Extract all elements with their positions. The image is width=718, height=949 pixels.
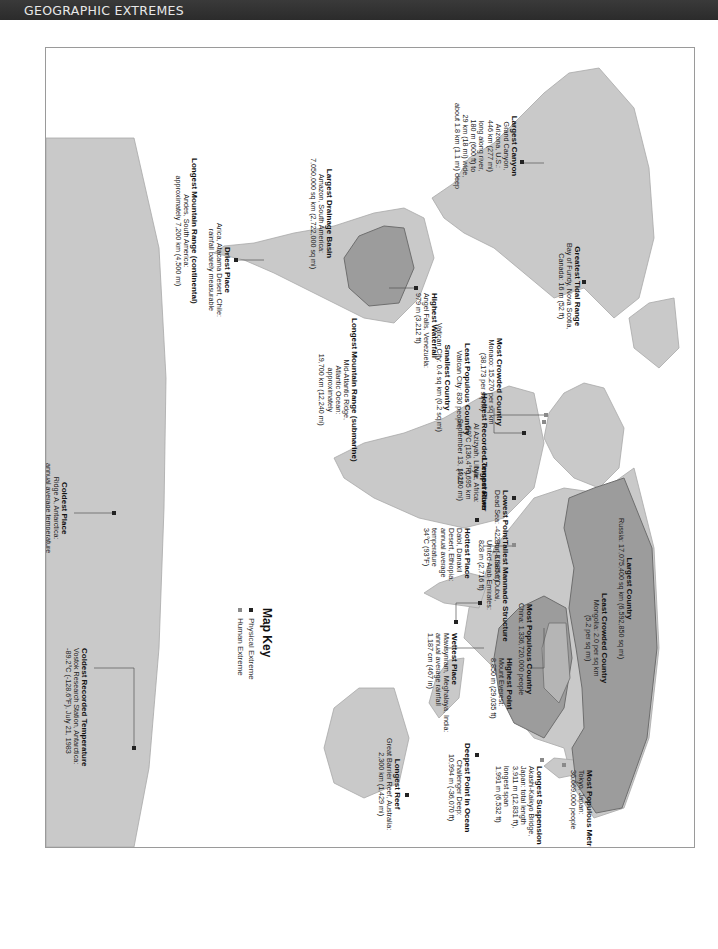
marker-al-aziziyah	[522, 431, 526, 435]
label-greatest-tidal-range: Greatest Tidal Range Bay of Fundy, Nova …	[557, 243, 582, 330]
marker-tokyo	[562, 763, 566, 767]
marker-atacama	[234, 258, 238, 262]
label-longest-river: Longest River Nile, Africa:6,695 km(4,16…	[455, 458, 489, 511]
marker-burj-khalifa	[512, 543, 516, 547]
label-wettest-place: Wettest Place Mawsynram, Meghalaya, Indi…	[425, 633, 459, 732]
label-coldest-place: Coldest Place Ridge A, Antarctica:annual…	[45, 463, 69, 553]
page-title: GEOGRAPHIC EXTREMES	[24, 3, 184, 18]
map-key: Map Key Physical Extreme Human Extreme	[235, 608, 274, 680]
marker-monaco	[544, 413, 548, 417]
greenland-shape	[629, 298, 679, 368]
map-land-shapes	[46, 48, 694, 847]
map-key-title: Map Key	[260, 608, 274, 680]
marker-akashi	[540, 758, 544, 762]
map-key-physical: Physical Extreme	[246, 608, 257, 680]
page-header: GEOGRAPHIC EXTREMES	[0, 0, 718, 20]
label-longest-mountain-range-submarine: Longest Mountain Range (submarine) Mid-A…	[317, 318, 359, 462]
label-hottest-place: Hottest Place Dalol, DanakilDesert, Ethi…	[422, 528, 472, 581]
label-longest-mountain-range-continental: Longest Mountain Range (continental) And…	[174, 158, 199, 304]
europe-shape	[544, 383, 624, 488]
label-highest-point: Highest Point Mount Everest:8,850 m (29,…	[489, 658, 514, 719]
label-most-populous-country: Most Populous Country China: 1,336,720,0…	[517, 603, 534, 695]
label-most-populous-metro: Most Populous Metropolitan Area Tokyo, J…	[569, 770, 594, 848]
label-longest-suspension-bridge: Longest Suspension Bridge Akashi-Kaikyo …	[494, 766, 544, 848]
marker-mawsynram	[454, 620, 458, 624]
marker-tidal-range	[582, 280, 586, 284]
label-largest-drainage-basin: Largest Drainage Basin Amazon, South Ame…	[309, 158, 334, 269]
label-least-crowded-country: Least Crowded Country Mongolia: 2.0 per …	[584, 593, 609, 683]
marker-dalol	[475, 518, 479, 522]
marker-ridge-a	[112, 511, 116, 515]
label-largest-canyon: Largest Canyon Grand Canyon,Arizona, U.S…	[453, 103, 519, 189]
map-frame: Largest Canyon Grand Canyon,Arizona, U.S…	[45, 47, 695, 848]
marker-largest-canyon	[520, 160, 524, 164]
marker-dead-sea	[512, 496, 516, 500]
label-smallest-country: Smallest Country Vatican City: 0.4 sq km…	[435, 323, 452, 432]
russia-highlight	[564, 478, 657, 813]
label-coldest-recorded-temperature: Coldest Recorded Temperature Vostok Rese…	[64, 648, 89, 767]
map-key-human: Human Extreme	[235, 608, 246, 680]
marker-great-barrier-reef	[405, 793, 409, 797]
marker-vostok	[132, 746, 136, 750]
label-tallest-manmade-structure: Tallest Manmade Structure Burj Khalifa, …	[476, 540, 510, 642]
world-map: Largest Canyon Grand Canyon,Arizona, U.S…	[46, 48, 694, 847]
physical-extreme-swatch-icon	[249, 608, 253, 612]
label-longest-reef: Longest Reef Great Barrier Reef, Austral…	[377, 738, 402, 830]
label-deepest-point: Deepest Point in Ocean Challenger Deep:1…	[447, 743, 472, 832]
label-driest-place: Driest Place Arica, Atacama Desert, Chil…	[207, 223, 232, 317]
label-largest-country: Largest Country Russia: 17,075,400 sq km…	[617, 518, 634, 659]
human-extreme-swatch-icon	[238, 608, 242, 612]
marker-vatican	[542, 420, 546, 424]
marker-angel-falls	[414, 286, 418, 290]
marker-challenger-deep	[475, 753, 479, 757]
